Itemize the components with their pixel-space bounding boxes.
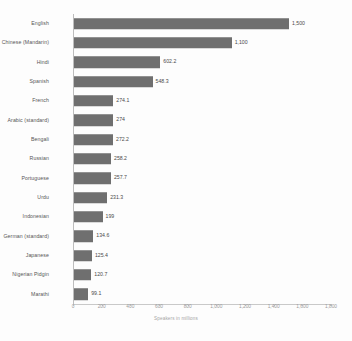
category-label: Portuguese bbox=[0, 176, 49, 181]
bar-row: Arabic (standard)274 bbox=[73, 111, 331, 130]
bar-row: Russian258.2 bbox=[73, 149, 331, 168]
bar-row: Portuguese257.7 bbox=[73, 169, 331, 188]
category-label: Chinese (Mandarin) bbox=[0, 40, 49, 45]
category-label: English bbox=[0, 21, 49, 26]
bar-value-label: 602.2 bbox=[160, 60, 176, 65]
plot-area: English1,500Chinese (Mandarin)1,100Hindi… bbox=[73, 14, 331, 304]
bar-row: Spanish548.3 bbox=[73, 72, 331, 91]
bar-value-label: 199 bbox=[103, 214, 115, 219]
bar bbox=[74, 250, 92, 262]
x-tick-label: 200 bbox=[98, 305, 106, 310]
bar-row: Nigerian Pidgin120.7 bbox=[73, 265, 331, 284]
x-tick-label: 1,800 bbox=[325, 305, 337, 310]
bar-value-label: 134.6 bbox=[93, 234, 109, 239]
bar-row: German (standard)134.6 bbox=[73, 227, 331, 246]
bar bbox=[74, 211, 103, 223]
bar-chart: English1,500Chinese (Mandarin)1,100Hindi… bbox=[0, 0, 352, 341]
bar-row: Chinese (Mandarin)1,100 bbox=[73, 33, 331, 52]
category-label: German (standard) bbox=[0, 234, 49, 239]
category-label: Arabic (standard) bbox=[0, 118, 49, 123]
bar bbox=[74, 173, 111, 185]
category-label: Nigerian Pidgin bbox=[0, 272, 49, 277]
bar-row: Hindi602.2 bbox=[73, 53, 331, 72]
bar-row: English1,500 bbox=[73, 14, 331, 33]
category-label: Indonesian bbox=[0, 214, 49, 219]
bar bbox=[74, 95, 113, 107]
bar-value-label: 548.3 bbox=[153, 79, 169, 84]
bar bbox=[74, 134, 113, 146]
category-label: Bengali bbox=[0, 137, 49, 142]
bar bbox=[74, 231, 93, 243]
x-tick-label: 1,400 bbox=[268, 305, 280, 310]
category-label: Japanese bbox=[0, 253, 49, 258]
bar-value-label: 125.4 bbox=[92, 253, 108, 258]
bar bbox=[74, 115, 113, 127]
bar-row: Marathi99.1 bbox=[73, 285, 331, 304]
bar-value-label: 231.3 bbox=[107, 195, 123, 200]
bar-value-label: 120.7 bbox=[91, 272, 107, 277]
bar-row: French274.1 bbox=[73, 91, 331, 110]
x-tick-label: 1,200 bbox=[239, 305, 251, 310]
category-label: Spanish bbox=[0, 79, 49, 84]
bar-value-label: 258.2 bbox=[111, 156, 127, 161]
category-label: Russian bbox=[0, 156, 49, 161]
bar-value-label: 274 bbox=[113, 118, 125, 123]
x-tick-label: 800 bbox=[184, 305, 192, 310]
bar bbox=[74, 153, 111, 165]
bar-value-label: 99.1 bbox=[88, 292, 101, 297]
category-label: French bbox=[0, 98, 49, 103]
x-tick-label: 1,000 bbox=[210, 305, 222, 310]
bar-row: Japanese125.4 bbox=[73, 246, 331, 265]
bar-value-label: 1,100 bbox=[232, 40, 248, 45]
x-tick-label: 400 bbox=[126, 305, 134, 310]
category-label: Urdu bbox=[0, 195, 49, 200]
x-axis-line bbox=[73, 304, 332, 305]
bar bbox=[74, 76, 153, 88]
x-tick-label: 1,600 bbox=[296, 305, 308, 310]
category-label: Hindi bbox=[0, 60, 49, 65]
bar bbox=[74, 289, 88, 301]
bar-value-label: 272.2 bbox=[113, 137, 129, 142]
bar-row: Urdu231.3 bbox=[73, 188, 331, 207]
bar bbox=[74, 192, 107, 204]
bar-row: Indonesian199 bbox=[73, 207, 331, 226]
bar-value-label: 257.7 bbox=[111, 176, 127, 181]
x-tick-label: 600 bbox=[155, 305, 163, 310]
bar bbox=[74, 57, 160, 69]
bar bbox=[74, 37, 232, 49]
x-axis-title: Speakers in millions bbox=[0, 317, 352, 322]
bar bbox=[74, 269, 91, 281]
bar-value-label: 274.1 bbox=[113, 98, 129, 103]
x-tick-label: 0 bbox=[72, 305, 75, 310]
bar-value-label: 1,500 bbox=[289, 21, 305, 26]
bar-row: Bengali272.2 bbox=[73, 130, 331, 149]
bar bbox=[74, 18, 289, 30]
category-label: Marathi bbox=[0, 292, 49, 297]
